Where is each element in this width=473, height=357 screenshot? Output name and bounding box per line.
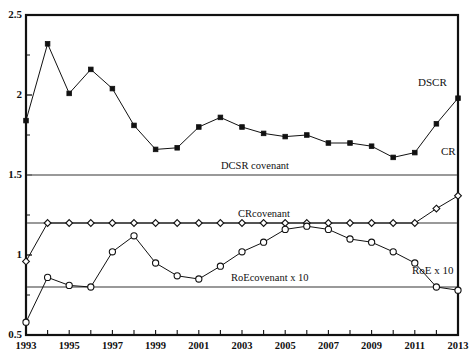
x-tick-label: 1997 <box>92 340 132 351</box>
cr-series-label: CR <box>441 145 456 157</box>
x-tick-label: 2005 <box>265 340 305 351</box>
y-tick-label: 1.5 <box>0 168 22 180</box>
x-tick-label: 1999 <box>136 340 176 351</box>
x-tick-label: 1993 <box>6 340 46 351</box>
cr-covenant-label: CRcovenant <box>235 208 293 219</box>
x-tick-label: 2013 <box>438 340 473 351</box>
x-tick-label: 2003 <box>222 340 262 351</box>
dscr-series-label: DSCR <box>418 76 447 88</box>
x-tick-label: 2001 <box>179 340 219 351</box>
x-tick-label: 2009 <box>352 340 392 351</box>
roe-covenant-label: RoEcovenant x 10 <box>228 272 312 283</box>
y-tick-label: 2.5 <box>0 8 22 20</box>
x-tick-label: 2011 <box>395 340 435 351</box>
x-tick-label: 2007 <box>308 340 348 351</box>
roe-series-label: RoE x 10 <box>412 264 454 276</box>
x-tick-label: 1995 <box>49 340 89 351</box>
y-tick-label: 0.5 <box>0 328 22 340</box>
y-tick-label: 2 <box>0 88 22 100</box>
y-tick-label: 1 <box>0 248 22 260</box>
dcsr-covenant-label: DCSR covenant <box>218 160 292 171</box>
